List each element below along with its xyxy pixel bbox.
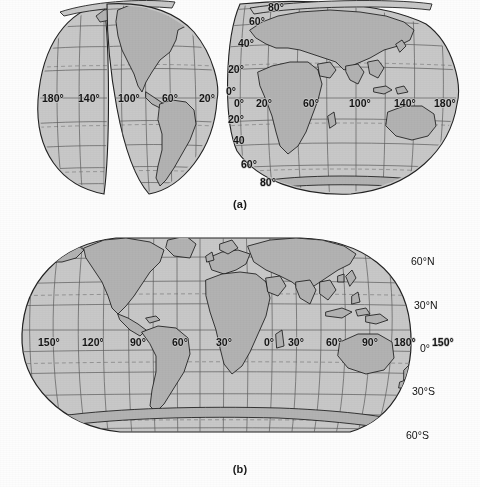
- lon-label-20e-a: 20°: [256, 98, 272, 109]
- lon-label-90e-b: 90°: [362, 337, 378, 348]
- map-panel-a: 180° 140° 100° 60° 20° 0° 0° 20° 60° 100…: [0, 0, 480, 218]
- lon-label-0-a-left: 0°: [226, 86, 236, 97]
- lon-label-60w-b: 60°: [172, 337, 188, 348]
- lon-label-180e-a: 180°: [434, 98, 456, 109]
- lon-label-30w-b: 30°: [216, 337, 232, 348]
- lon-label-60w-a: 60°: [162, 93, 178, 104]
- lon-label-60e-a: 60°: [303, 98, 319, 109]
- panel-b-caption: (b): [0, 463, 480, 475]
- map-stage-b: 150° 120° 90° 60° 30° 0° 30° 60° 90° 180…: [0, 218, 480, 487]
- map-panel-b: 150° 120° 90° 60° 30° 0° 30° 60° 90° 180…: [0, 218, 480, 487]
- map-stage-a: 180° 140° 100° 60° 20° 0° 0° 20° 60° 100…: [0, 0, 480, 218]
- lat-label-80n-a: 80°: [268, 2, 284, 13]
- lat-label-60s-a: 60°: [241, 159, 257, 170]
- panel-a-caption: (a): [0, 198, 480, 210]
- lon-label-100e-a: 100°: [349, 98, 371, 109]
- lat-label-80s-a: 80°: [260, 177, 276, 188]
- lon-label-150w-b: 150°: [38, 337, 60, 348]
- lon-label-140w-a: 140°: [78, 93, 100, 104]
- lon-label-140e-a: 140°: [394, 98, 416, 109]
- lon-label-100w-a: 100°: [118, 93, 140, 104]
- interrupted-projection-graphic: [0, 0, 480, 218]
- lon-label-0-a-right: 0°: [234, 98, 244, 109]
- figure-container: 180° 140° 100° 60° 20° 0° 0° 20° 60° 100…: [0, 0, 480, 487]
- lon-label-60e-b: 60°: [326, 337, 342, 348]
- lon-label-180w-a: 180°: [42, 93, 64, 104]
- robinson-projection-graphic: [0, 218, 480, 487]
- lat-label-40s-a: 40: [233, 135, 245, 146]
- lat-label-30n-b: 30°N: [414, 300, 437, 311]
- lat-label-60s-b: 60°S: [406, 430, 429, 441]
- lon-label-20w-a: 20°: [199, 93, 215, 104]
- lat-label-20s-a: 20°: [228, 114, 244, 125]
- lat-label-40n-a: 40°: [238, 38, 254, 49]
- lat-label-60n-a: 60°: [249, 16, 265, 27]
- lon-label-120w-b: 120°: [82, 337, 104, 348]
- lon-label-150e-b: 150°: [432, 337, 454, 348]
- lat-label-30s-b: 30°S: [412, 386, 435, 397]
- lat-label-0-b: 0°: [420, 343, 430, 354]
- lat-label-20n-a: 20°: [228, 64, 244, 75]
- lon-label-120e-b: 180°: [394, 337, 416, 348]
- lon-label-0-b: 0°: [264, 337, 274, 348]
- lat-label-60n-b: 60°N: [411, 256, 434, 267]
- lon-label-30e-b: 30°: [288, 337, 304, 348]
- lon-label-90w-b: 90°: [130, 337, 146, 348]
